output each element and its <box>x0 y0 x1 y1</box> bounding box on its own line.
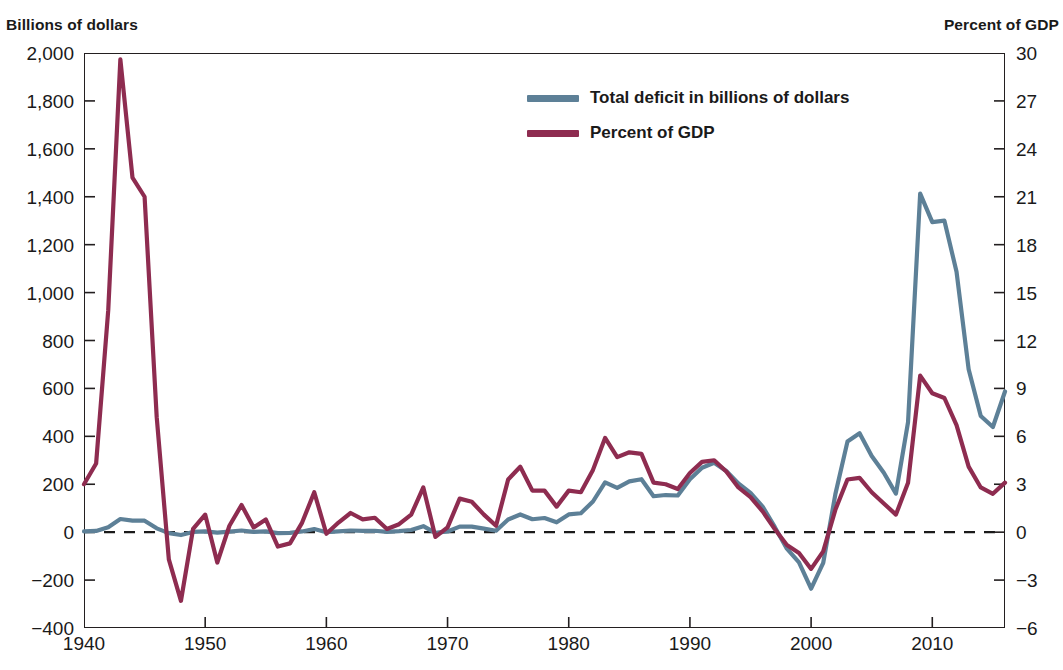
y2-axis-tick-label: 15 <box>1016 284 1063 303</box>
x-axis-tick-label: 1960 <box>286 634 366 653</box>
y2-axis-tick-label: 24 <box>1016 140 1063 159</box>
y2-axis-tick-label: 21 <box>1016 188 1063 207</box>
y2-axis-tick-label: 6 <box>1016 427 1063 446</box>
legend-item-percent-gdp[interactable]: Percent of GDP <box>527 123 715 143</box>
y-axis-tick-label: 1,400 <box>0 188 74 207</box>
legend-label: Percent of GDP <box>590 123 715 143</box>
x-axis-tick-label: 2000 <box>771 634 851 653</box>
chart-figure: Billions of dollars Percent of GDP −400−… <box>0 0 1063 670</box>
y-axis-tick-label: 0 <box>0 523 74 542</box>
y2-axis-tick-label: 30 <box>1016 44 1063 63</box>
y-axis-tick-label: 200 <box>0 475 74 494</box>
legend-swatch <box>527 130 579 137</box>
right-axis-title: Percent of GDP <box>944 16 1059 34</box>
y2-axis-tick-label: 12 <box>1016 332 1063 351</box>
x-axis-tick-label: 1990 <box>650 634 730 653</box>
y-axis-tick-label: 1,600 <box>0 140 74 159</box>
y2-axis-tick-label: 9 <box>1016 379 1063 398</box>
left-axis-title: Billions of dollars <box>6 16 138 34</box>
y-axis-tick-label: −200 <box>0 571 74 590</box>
cropped-figure-title <box>120 0 1000 9</box>
y-axis-tick-label: 1,200 <box>0 236 74 255</box>
y2-axis-tick-label: 3 <box>1016 475 1063 494</box>
y-axis-tick-label: 1,800 <box>0 92 74 111</box>
y-axis-tick-label: 400 <box>0 427 74 446</box>
x-axis-tick-label: 1940 <box>44 634 124 653</box>
y2-axis-tick-label: 27 <box>1016 92 1063 111</box>
y-axis-tick-label: 2,000 <box>0 44 74 63</box>
y-axis-tick-label: 1,000 <box>0 284 74 303</box>
legend-swatch <box>527 95 579 102</box>
y2-axis-tick-label: 0 <box>1016 523 1063 542</box>
y-axis-tick-label: 600 <box>0 379 74 398</box>
legend-item-total-deficit[interactable]: Total deficit in billions of dollars <box>527 88 849 108</box>
x-axis-tick-label: 1970 <box>408 634 488 653</box>
legend-label: Total deficit in billions of dollars <box>590 88 849 108</box>
y2-axis-tick-label: −3 <box>1016 571 1063 590</box>
y2-axis-tick-label: −6 <box>1016 619 1063 638</box>
series-line-total-deficit <box>84 194 1005 589</box>
y-axis-tick-label: 800 <box>0 332 74 351</box>
x-axis-tick-label: 1980 <box>529 634 609 653</box>
x-axis-tick-label: 2010 <box>892 634 972 653</box>
x-axis-tick-label: 1950 <box>165 634 245 653</box>
y2-axis-tick-label: 18 <box>1016 236 1063 255</box>
